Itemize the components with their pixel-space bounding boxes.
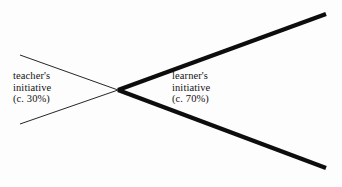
teacher-label-line-3: (c. 30%) bbox=[13, 93, 51, 105]
teacher-label-line-2: initiative bbox=[13, 82, 51, 94]
learner-label-line-1: learner's bbox=[172, 70, 210, 82]
teacher-label-line-1: teacher's bbox=[13, 70, 51, 82]
learner-initiative-label: learner's initiative (c. 70%) bbox=[172, 70, 210, 105]
teacher-initiative-label: teacher's initiative (c. 30%) bbox=[13, 70, 51, 105]
learner-label-line-2: initiative bbox=[172, 82, 210, 94]
learner-initiative-wedge bbox=[118, 14, 326, 168]
thick-line-lower bbox=[118, 90, 326, 168]
diagram-canvas: teacher's initiative (c. 30%) learner's … bbox=[0, 0, 342, 187]
thick-line-upper bbox=[118, 14, 326, 90]
learner-label-line-3: (c. 70%) bbox=[172, 93, 210, 105]
